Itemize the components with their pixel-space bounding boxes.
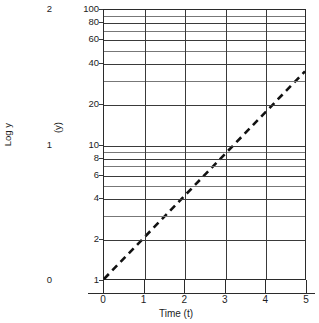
gridline-horizontal bbox=[104, 199, 305, 200]
gridline-horizontal bbox=[104, 105, 305, 106]
gridline-horizontal bbox=[104, 146, 305, 147]
x-tick-mark bbox=[306, 280, 307, 293]
logy-tick-label: 0 bbox=[47, 275, 52, 285]
y-tick-label: 10 bbox=[88, 140, 99, 150]
plot-area bbox=[103, 9, 306, 280]
gridline-horizontal bbox=[104, 159, 305, 160]
gridline-horizontal bbox=[104, 240, 305, 241]
gridline-horizontal bbox=[104, 186, 305, 187]
x-tick-label: 5 bbox=[303, 295, 309, 305]
x-tick-label: 4 bbox=[263, 295, 269, 305]
x-tick-label: 3 bbox=[222, 295, 228, 305]
x-tick-label: 1 bbox=[141, 295, 147, 305]
x-tick-mark bbox=[225, 280, 226, 293]
gridline-horizontal bbox=[104, 176, 305, 177]
x-tick-row: 012345 bbox=[103, 280, 306, 310]
y-tick-label: 20 bbox=[88, 99, 99, 109]
gridline-horizontal bbox=[104, 31, 305, 32]
x-axis-caption-text: Time (t) bbox=[159, 308, 193, 319]
gridline-vertical bbox=[145, 10, 146, 279]
y-tick-label: 40 bbox=[88, 58, 99, 68]
gridline-horizontal bbox=[104, 152, 305, 153]
gridline-horizontal bbox=[104, 40, 305, 41]
gridline-horizontal bbox=[104, 16, 305, 17]
logy-tick-label: 2 bbox=[47, 4, 52, 14]
x-tick-label: 2 bbox=[181, 295, 187, 305]
y-tick-label: 80 bbox=[88, 17, 99, 27]
x-tick-mark bbox=[144, 280, 145, 293]
logy-tick-column: 210 bbox=[30, 9, 52, 280]
y-tick-label: 100 bbox=[83, 4, 99, 14]
gridline-horizontal bbox=[104, 23, 305, 24]
gridline-horizontal bbox=[104, 64, 305, 65]
x-tick-mark bbox=[265, 280, 266, 293]
gridline-vertical bbox=[185, 10, 186, 279]
y-axis-value-label: (y) bbox=[52, 122, 63, 133]
x-tick-mark bbox=[184, 280, 185, 293]
gridline-vertical bbox=[226, 10, 227, 279]
gridline-vertical bbox=[266, 10, 267, 279]
gridline-horizontal bbox=[104, 51, 305, 52]
x-tick-label: 0 bbox=[100, 295, 106, 305]
y-tick-column: 100806040201086421 bbox=[63, 9, 99, 280]
x-axis-caption: Time (t) bbox=[0, 308, 319, 319]
logy-tick-label: 1 bbox=[47, 140, 52, 150]
semi-log-chart-figure: Log y (y) 210 100806040201086421 012345 … bbox=[0, 0, 319, 323]
y-axis-log-label: Log y bbox=[2, 123, 13, 146]
gridline-horizontal bbox=[104, 216, 305, 217]
y-tick-label: 60 bbox=[88, 34, 99, 44]
gridline-horizontal bbox=[104, 81, 305, 82]
x-tick-mark bbox=[103, 280, 104, 293]
gridline-horizontal bbox=[104, 166, 305, 167]
